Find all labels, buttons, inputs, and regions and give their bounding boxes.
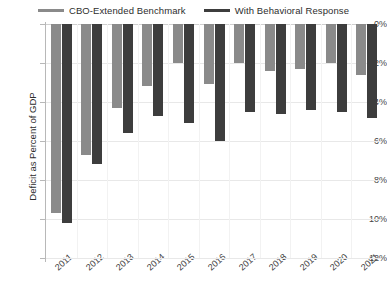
bar	[92, 24, 102, 164]
gridline	[46, 180, 382, 181]
legend-swatch-behavioral	[204, 9, 230, 12]
legend-label-behavioral: With Behavioral Response	[235, 5, 349, 16]
bar	[112, 24, 122, 108]
plot-area	[46, 24, 382, 258]
vertical-gridline	[138, 24, 139, 258]
bar	[123, 24, 133, 133]
bar	[265, 24, 275, 71]
bar	[184, 24, 194, 123]
vertical-gridline	[321, 24, 322, 258]
bar	[367, 24, 377, 118]
bar	[215, 24, 225, 141]
bar	[356, 24, 366, 75]
vertical-gridline	[77, 24, 78, 258]
bar	[153, 24, 163, 116]
vertical-gridline	[107, 24, 108, 258]
bar	[337, 24, 347, 112]
deficit-bar-chart: CBO-Extended Benchmark With Behavioral R…	[0, 0, 387, 303]
y-axis-title: Deficit as Percent of GDP	[27, 67, 38, 227]
bar	[326, 24, 336, 63]
vertical-gridline	[351, 24, 352, 258]
bar	[142, 24, 152, 86]
bar	[234, 24, 244, 63]
vertical-gridline	[229, 24, 230, 258]
bar	[62, 24, 72, 223]
bar	[173, 24, 183, 63]
bar	[204, 24, 214, 84]
bar	[295, 24, 305, 69]
bar	[245, 24, 255, 112]
legend-label-benchmark: CBO-Extended Benchmark	[69, 5, 186, 16]
chart-legend: CBO-Extended Benchmark With Behavioral R…	[0, 0, 387, 20]
legend-swatch-benchmark	[38, 9, 64, 12]
vertical-gridline	[290, 24, 291, 258]
bar	[306, 24, 316, 110]
bar	[276, 24, 286, 114]
vertical-gridline	[260, 24, 261, 258]
legend-item-benchmark: CBO-Extended Benchmark	[38, 5, 186, 16]
gridline	[46, 258, 382, 259]
vertical-gridline	[199, 24, 200, 258]
vertical-gridline	[168, 24, 169, 258]
bar	[81, 24, 91, 155]
bar	[51, 24, 61, 213]
legend-item-behavioral: With Behavioral Response	[204, 5, 349, 16]
gridline	[46, 219, 382, 220]
